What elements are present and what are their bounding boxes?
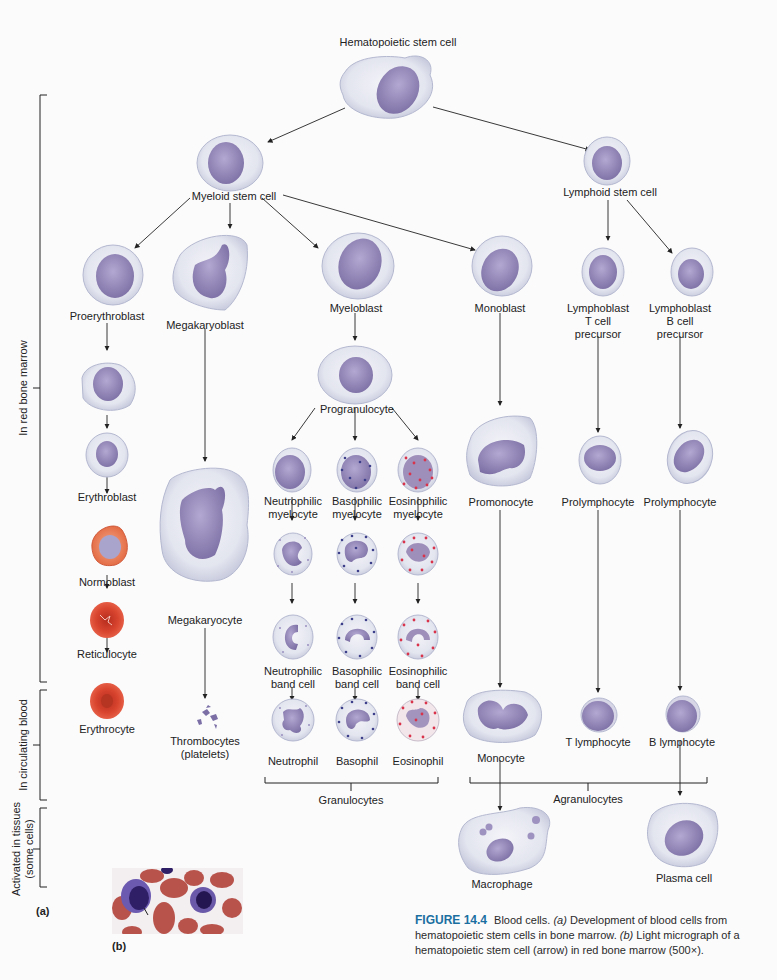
label-basophil: Basophil — [336, 755, 378, 768]
label-megakaryocyte: Megakaryocyte — [168, 614, 243, 627]
region-label-tissues-line2: (some cells) — [23, 819, 36, 878]
label-macrophage: Macrophage — [471, 878, 532, 891]
label-eosinophil: Eosinophil — [393, 755, 444, 768]
label-erythroblast: Erythroblast — [78, 491, 137, 504]
micrograph-image — [112, 868, 243, 934]
label-neutrophil: Neutrophil — [268, 755, 318, 768]
label-normoblast: Normoblast — [79, 576, 135, 589]
label-progranulocyte: Progranulocyte — [320, 403, 394, 416]
label-thrombocytes: Thrombocytes (platelets) — [170, 735, 240, 761]
label-erythrocyte: Erythrocyte — [79, 723, 135, 736]
label-megakaryoblast: Megakaryoblast — [166, 319, 244, 332]
label-lymphoblast-b: Lymphoblast B cell precursor — [649, 302, 711, 341]
hsc-cell — [340, 56, 433, 122]
label-basophilic-band-cell: Basophilic band cell — [332, 665, 382, 691]
label-promonocyte: Promonocyte — [469, 496, 534, 509]
figure-number: FIGURE 14.4 — [415, 913, 487, 927]
label-prolymphocyte-b: Prolymphocyte — [644, 496, 717, 509]
label-proerythroblast: Proerythroblast — [70, 310, 145, 323]
label-myeloid-stem-cell: Myeloid stem cell — [192, 190, 276, 203]
label-lymphoblast-t: Lymphoblast T cell precursor — [567, 302, 629, 341]
label-b-lymphocyte: B lymphocyte — [649, 736, 715, 749]
region-label-bone-marrow: In red bone marrow — [17, 340, 30, 435]
label-neutrophilic-myelocyte: Neutrophilic myelocyte — [264, 495, 322, 521]
label-monocyte: Monocyte — [477, 752, 525, 765]
label-t-lymphocyte: T lymphocyte — [565, 736, 630, 749]
label-granulocytes: Granulocytes — [319, 794, 384, 807]
label-monoblast: Monoblast — [475, 302, 526, 315]
label-lymphoid-stem-cell: Lymphoid stem cell — [563, 186, 657, 199]
region-label-tissues-line1: Activated in tissues — [10, 802, 23, 896]
label-basophilic-myelocyte: Basophilic myelocyte — [332, 495, 382, 521]
label-myeloblast: Myeloblast — [330, 302, 383, 315]
label-plasma-cell: Plasma cell — [656, 872, 712, 885]
lineage-arrows — [0, 0, 777, 980]
label-hematopoietic-stem-cell: Hematopoietic stem cell — [340, 36, 457, 49]
label-agranulocytes: Agranulocytes — [553, 793, 623, 806]
label-eosinophilic-band-cell: Eosinophilic band cell — [389, 665, 448, 691]
label-eosinophilic-myelocyte: Eosinophilic myelocyte — [389, 495, 448, 521]
panel-b-label: (b) — [112, 940, 126, 952]
label-reticulocyte: Reticulocyte — [77, 648, 137, 661]
label-prolymphocyte-t: Prolymphocyte — [562, 496, 635, 509]
label-neutrophilic-band-cell: Neutrophilic band cell — [264, 665, 322, 691]
figure-caption: FIGURE 14.4 Blood cells. (a) Development… — [415, 913, 775, 958]
region-label-circulating-blood: In circulating blood — [17, 699, 30, 791]
panel-a-label: (a) — [36, 905, 49, 917]
